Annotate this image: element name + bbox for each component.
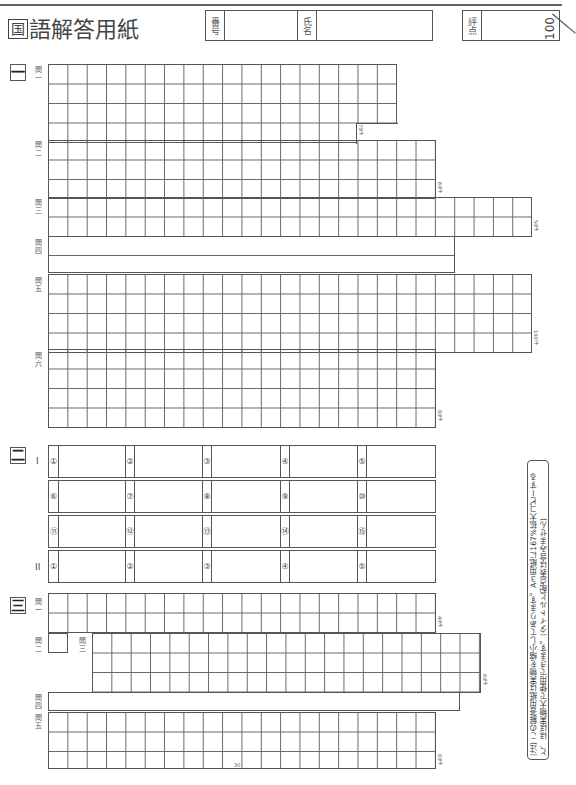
s1-q5-count: 100字 (533, 330, 540, 345)
s3-q3-label: 問三 (77, 637, 87, 653)
s3-q5-label: 問五 (33, 714, 43, 730)
s1-q2-label: 問二 (33, 141, 43, 157)
s1-q3-grid[interactable] (48, 197, 532, 237)
top-rule (0, 4, 562, 6)
s2-r1-num-5: ⑤ (357, 446, 367, 477)
s2-r1-num-1: ① (49, 446, 59, 477)
s1-q2-grid[interactable] (48, 140, 436, 199)
title-text: 語解答用紙 (29, 17, 139, 42)
s2-r4-num-5: ⑤ (357, 551, 367, 582)
name-label: 氏名 (298, 11, 317, 40)
s1-q4-divider (49, 255, 454, 256)
page-title: 国語解答用紙 (8, 11, 139, 43)
s2-part1-label: I (36, 456, 39, 466)
s1-q4-label: 問四 (33, 239, 43, 255)
s2-r1-num-2: ② (125, 446, 135, 477)
s3-q5-count: 60字 (437, 754, 444, 765)
s3-q4-answer[interactable] (48, 692, 460, 711)
s2-row-4: ① ② ③ ④ ⑤ (48, 550, 436, 583)
s2-r2-num-2: ⑦ (125, 481, 135, 512)
score-label: 評点 (463, 11, 482, 40)
s3-q1-label: 問一 (33, 598, 43, 614)
s1-q3-label: 問三 (33, 199, 43, 215)
s3-q1-grid[interactable] (48, 593, 436, 633)
s2-r3-num-1: ⑪ (49, 516, 59, 547)
s3-q5-grid[interactable] (48, 712, 436, 769)
s2-r4-num-1: ① (49, 551, 59, 582)
s2-r3-num-3: ⑬ (202, 516, 212, 547)
s1-q6-label: 問六 (33, 352, 43, 368)
s3-q3-grid[interactable] (92, 633, 481, 693)
score-max: 100 (543, 17, 557, 40)
s1-q4-answer[interactable] (48, 236, 455, 273)
s1-q1-label: 問一 (33, 66, 43, 82)
name-field[interactable]: 氏名 (297, 10, 433, 41)
section-1-mark: 一 (10, 64, 26, 81)
s1-q1-grid[interactable] (48, 64, 397, 143)
s2-r3-num-5: ⑮ (357, 516, 367, 547)
s3-q2-answer[interactable] (48, 633, 68, 653)
number-field[interactable]: 番号 (205, 10, 298, 41)
section-3-mark: 三 (10, 597, 26, 614)
number-label: 番号 (206, 11, 225, 40)
s2-r3-num-4: ⑭ (280, 516, 290, 547)
s2-r2-num-1: ⑥ (49, 481, 59, 512)
s3-q1-count: 40字 (437, 616, 444, 627)
title-prefix: 国 (8, 19, 28, 39)
s1-q2-count: 60字 (437, 182, 444, 193)
s2-r4-num-2: ② (125, 551, 135, 582)
s2-row-3: ⑪ ⑫ ⑬ ⑭ ⑮ (48, 515, 436, 548)
s2-row-1: ① ② ③ ④ ⑤ (48, 445, 436, 478)
s3-q2-label: 問二 (33, 637, 43, 653)
s2-r1-num-4: ④ (280, 446, 290, 477)
s1-q6-count: 80字 (437, 410, 444, 421)
s2-part2-label: II (35, 562, 40, 572)
s1-q5-label: 問五 (33, 277, 43, 293)
s2-r2-num-4: ⑨ (280, 481, 290, 512)
s1-q5-grid[interactable] (48, 274, 532, 353)
s2-r4-num-3: ③ (202, 551, 212, 582)
s1-q1-count: 75字 (358, 124, 365, 135)
s3-q3-count: 60字 (482, 674, 489, 685)
s2-r2-num-5: ⑩ (357, 481, 367, 512)
s2-r3-num-2: ⑫ (125, 516, 135, 547)
s1-q3-count: 50字 (533, 220, 540, 231)
s2-r4-num-4: ④ (280, 551, 290, 582)
s3-q5-mid-marker: 30 (234, 762, 240, 768)
s2-r1-num-3: ③ (202, 446, 212, 477)
s1-q6-grid[interactable] (48, 349, 436, 428)
s2-row-2: ⑥ ⑦ ⑧ ⑨ ⑩ (48, 480, 436, 513)
note-box: (注) この解答用紙は実物を縮小してあります。A３用紙に167%拡大コピーすると… (527, 460, 549, 760)
section-2-mark: 二 (10, 447, 26, 464)
s2-r2-num-3: ⑧ (202, 481, 212, 512)
score-field[interactable]: 評点 100 (462, 10, 560, 41)
s3-q4-label: 問四 (33, 694, 43, 710)
